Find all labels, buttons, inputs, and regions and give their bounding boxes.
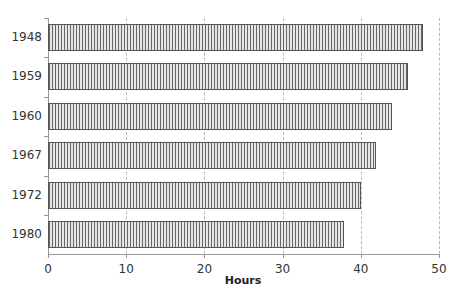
x-tick-label: 10 [119,262,134,276]
y-category-label: 1948 [0,30,42,44]
y-tick [44,97,49,98]
gridline [126,18,127,254]
bar-1980 [48,221,344,248]
x-tick-label: 30 [275,262,290,276]
bar-1967 [48,142,376,169]
y-tick [44,57,49,58]
x-tick [126,254,127,258]
y-category-label: 1980 [0,227,42,241]
y-tick [44,176,49,177]
gridline [439,18,440,254]
y-tick [44,215,49,216]
gridline [204,18,205,254]
x-tick-label: 0 [44,262,52,276]
bar-1959 [48,63,408,90]
y-category-label: 1972 [0,188,42,202]
x-tick-label: 40 [353,262,368,276]
bar-1960 [48,103,392,130]
x-tick-label: 50 [431,262,446,276]
bar-1972 [48,182,361,209]
y-tick [44,18,49,19]
y-category-label: 1959 [0,69,42,83]
x-tick [48,254,49,258]
x-tick [439,254,440,258]
horizontal-bar-chart: 194819591960196719721980 01020304050 Hou… [0,0,459,298]
x-tick [283,254,284,258]
y-category-label: 1967 [0,148,42,162]
gridline [283,18,284,254]
x-tick [204,254,205,258]
x-axis-title: Hours [225,274,262,287]
x-axis [48,254,439,255]
x-tick-label: 20 [197,262,212,276]
y-tick [44,136,49,137]
bar-1948 [48,24,423,51]
y-category-label: 1960 [0,109,42,123]
x-tick [361,254,362,258]
gridline [361,18,362,254]
